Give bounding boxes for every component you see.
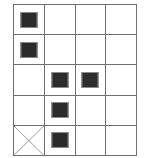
grid-cell[interactable] — [14, 35, 45, 65]
grid-cell[interactable] — [44, 95, 75, 125]
grid-body — [14, 5, 137, 156]
grid-cell[interactable] — [106, 125, 137, 155]
grid-cell[interactable] — [75, 65, 106, 95]
grid-cell[interactable] — [14, 5, 45, 35]
grid-cell[interactable] — [75, 5, 106, 35]
grid-cell-content — [76, 35, 106, 64]
grid-cell[interactable] — [106, 65, 137, 95]
grid-cell-content — [45, 65, 75, 94]
grid-cell-content — [106, 65, 136, 94]
grid-row — [14, 5, 137, 35]
grid-cell-content — [14, 65, 44, 94]
grid-cell-content — [45, 35, 75, 64]
grid-cell-content — [106, 126, 136, 155]
cross-out-icon — [14, 126, 44, 155]
grid-cell[interactable] — [106, 35, 137, 65]
filled-square-marker — [82, 72, 99, 88]
grid-cell-content — [14, 126, 44, 155]
filled-square-marker — [51, 132, 68, 148]
grid-cell[interactable] — [106, 5, 137, 35]
grid-table — [13, 4, 137, 156]
grid-cell[interactable] — [14, 125, 45, 155]
grid-cell-content — [45, 5, 75, 34]
grid-cell-content — [76, 126, 106, 155]
grid-row — [14, 35, 137, 65]
grid-cell[interactable] — [44, 5, 75, 35]
grid-cell[interactable] — [75, 125, 106, 155]
grid-cell-content — [14, 35, 44, 64]
filled-square-marker — [51, 102, 68, 118]
grid-cell-content — [106, 35, 136, 64]
grid-row — [14, 65, 137, 95]
grid-cell-content — [14, 96, 44, 125]
grid-cell[interactable] — [44, 35, 75, 65]
grid-cell-content — [76, 65, 106, 94]
grid-cell[interactable] — [75, 35, 106, 65]
grid-cell-content — [45, 126, 75, 155]
grid-cell-content — [45, 96, 75, 125]
grid-cell-content — [106, 5, 136, 34]
grid-cell[interactable] — [14, 65, 45, 95]
filled-square-marker — [51, 72, 68, 88]
grid-row — [14, 125, 137, 155]
filled-square-marker — [20, 42, 37, 58]
grid-row — [14, 95, 137, 125]
filled-square-marker — [20, 12, 37, 28]
grid-cell[interactable] — [106, 95, 137, 125]
grid-cell-content — [76, 96, 106, 125]
grid-cell-content — [14, 5, 44, 34]
grid-cell-content — [106, 96, 136, 125]
grid-cell[interactable] — [75, 95, 106, 125]
grid-cell[interactable] — [44, 65, 75, 95]
grid-cell[interactable] — [44, 125, 75, 155]
grid-cell-content — [76, 5, 106, 34]
grid-cell[interactable] — [14, 95, 45, 125]
grid-diagram — [13, 4, 132, 150]
